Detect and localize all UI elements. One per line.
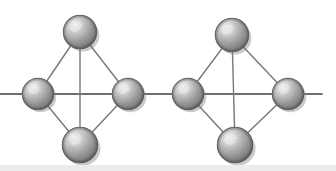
atom-right-top [215, 18, 251, 54]
atom-right-bottom [217, 127, 256, 166]
atom-left-east [112, 78, 146, 112]
atom-right-east [272, 78, 306, 112]
atom-left-west [22, 78, 56, 112]
figure-root [0, 0, 336, 171]
atoms-layer [22, 15, 306, 166]
atom-left-bottom [62, 127, 101, 166]
atom-right-west [172, 78, 206, 112]
cluster-diagram [0, 0, 336, 171]
atom-left-top [63, 15, 99, 51]
